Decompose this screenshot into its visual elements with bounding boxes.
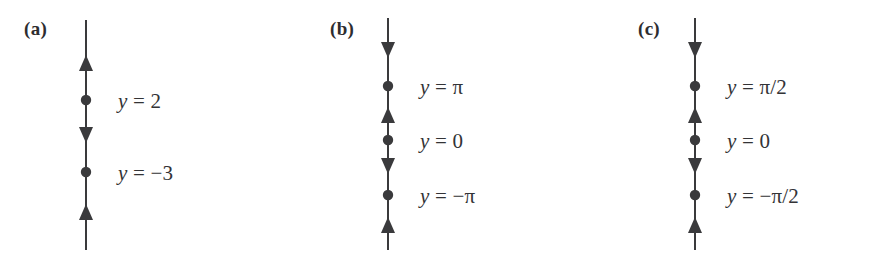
equilibrium-dot — [81, 95, 91, 105]
equation-operator: = — [742, 129, 754, 153]
equilibrium-dot — [383, 135, 393, 145]
equation-value: 0 — [759, 129, 770, 153]
equation-variable: y — [420, 75, 430, 99]
equation-value: 0 — [452, 129, 463, 153]
equation-variable: y — [118, 161, 128, 185]
flow-arrow-up-icon — [688, 107, 702, 123]
equation-variable: y — [727, 129, 737, 153]
flow-arrow-up-icon — [688, 217, 702, 233]
phase-line-figure: (a)y = 2y = −3(b)y = πy = 0y = −π(c)y = … — [0, 0, 870, 257]
flow-arrow-down-icon — [688, 158, 702, 174]
equation-value: −π — [452, 184, 475, 208]
flow-arrow-up-icon — [79, 55, 93, 71]
equation-variable: y — [118, 89, 128, 113]
panel-tag: (b) — [330, 18, 354, 40]
flow-arrow-down-icon — [381, 42, 395, 58]
equilibrium-dot — [690, 135, 700, 145]
equilibrium-label: y = π/2 — [727, 75, 787, 100]
equation-operator: = — [742, 75, 754, 99]
equation-operator: = — [435, 129, 447, 153]
equilibrium-label: y = −π — [420, 184, 475, 209]
equilibrium-label: y = π — [420, 75, 463, 100]
equilibrium-dot — [81, 167, 91, 177]
equation-variable: y — [727, 184, 737, 208]
equilibrium-dot — [690, 81, 700, 91]
equilibrium-label: y = −3 — [118, 161, 173, 186]
equation-variable: y — [727, 75, 737, 99]
equilibrium-label: y = 0 — [727, 129, 770, 154]
phase-line-axis — [374, 0, 402, 257]
equilibrium-label: y = −π/2 — [727, 184, 799, 209]
flow-arrow-up-icon — [381, 217, 395, 233]
equation-operator: = — [742, 184, 754, 208]
phase-line-axis — [72, 0, 100, 257]
equation-value: π — [452, 75, 463, 99]
equilibrium-dot — [383, 81, 393, 91]
equation-value: π/2 — [759, 75, 787, 99]
equation-operator: = — [133, 89, 145, 113]
equation-value: −π/2 — [759, 184, 799, 208]
flow-arrow-up-icon — [381, 107, 395, 123]
flow-arrow-down-icon — [381, 158, 395, 174]
equation-value: 2 — [150, 89, 161, 113]
flow-arrow-up-icon — [79, 204, 93, 220]
panel-tag: (a) — [24, 18, 47, 40]
flow-arrow-down-icon — [79, 127, 93, 143]
equilibrium-dot — [690, 190, 700, 200]
equation-operator: = — [435, 184, 447, 208]
equilibrium-label: y = 0 — [420, 129, 463, 154]
equation-operator: = — [133, 161, 145, 185]
flow-arrow-down-icon — [688, 42, 702, 58]
equation-variable: y — [420, 184, 430, 208]
phase-line-axis — [681, 0, 709, 257]
equation-value: −3 — [150, 161, 173, 185]
equation-variable: y — [420, 129, 430, 153]
equilibrium-dot — [383, 190, 393, 200]
equation-operator: = — [435, 75, 447, 99]
equilibrium-label: y = 2 — [118, 89, 161, 114]
panel-tag: (c) — [638, 18, 660, 40]
